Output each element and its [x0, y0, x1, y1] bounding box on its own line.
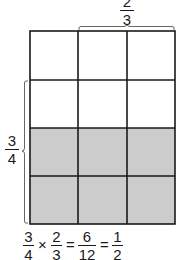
equals-operator: =	[100, 237, 109, 252]
left-fraction-label: 3 4	[5, 133, 19, 166]
left-fraction-denominator: 4	[8, 151, 16, 166]
top-fraction-label: 2 3	[120, 0, 134, 27]
top-fraction-numerator: 2	[123, 0, 131, 9]
term-numerator: 6	[83, 229, 91, 244]
equation-term-4: 1 2	[112, 229, 123, 260]
top-fraction-denominator: 3	[123, 12, 131, 27]
left-fraction-numerator: 3	[8, 133, 16, 148]
left-brace	[22, 81, 28, 223]
term-denominator: 2	[113, 247, 121, 260]
term-numerator: 1	[113, 229, 121, 244]
term-denominator: 12	[79, 247, 96, 260]
term-denominator: 3	[52, 247, 60, 260]
multiply-operator: ×	[38, 237, 47, 252]
equation-term-3: 6 12	[78, 229, 96, 260]
term-numerator: 3	[24, 229, 32, 244]
term-numerator: 2	[52, 229, 60, 244]
term-denominator: 4	[24, 247, 32, 260]
equation-term-2: 2 3	[51, 229, 62, 260]
area-model-diagram	[0, 0, 179, 260]
equals-operator: =	[66, 237, 75, 252]
equation-term-1: 3 4	[23, 229, 34, 260]
